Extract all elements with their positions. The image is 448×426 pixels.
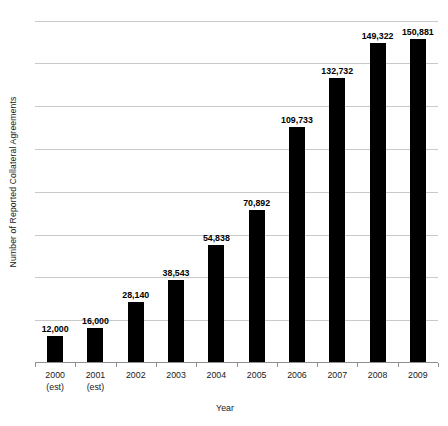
x-axis-title: Year bbox=[0, 403, 448, 413]
x-axis-label-year: 2006 bbox=[287, 370, 307, 380]
bar-group[interactable]: 109,733 bbox=[289, 127, 305, 362]
bar-value-label: 132,732 bbox=[321, 66, 353, 76]
x-axis-tick bbox=[156, 363, 157, 367]
x-axis-tick bbox=[75, 363, 76, 367]
x-axis-label: 2004 bbox=[207, 370, 227, 382]
x-axis-label-estimate-note: (est) bbox=[45, 382, 65, 394]
x-axis-tick bbox=[35, 363, 36, 367]
bar-group[interactable]: 70,892 bbox=[249, 210, 265, 362]
bar[interactable] bbox=[87, 328, 103, 362]
x-axis-label-year: 2007 bbox=[327, 370, 347, 380]
bar-group[interactable]: 132,732 bbox=[329, 78, 345, 362]
x-axis-tick bbox=[357, 363, 358, 367]
bar-chart: Number of Reported Collateral Agreements… bbox=[0, 0, 448, 426]
x-axis-label: 2008 bbox=[368, 370, 388, 382]
bar-value-label: 70,892 bbox=[243, 198, 270, 208]
x-axis-label: 2000(est) bbox=[45, 370, 65, 393]
x-axis-label-year: 2003 bbox=[166, 370, 186, 380]
plot-area: 12,00016,00028,14038,54354,83870,892109,… bbox=[35, 10, 438, 363]
bar-value-label: 54,838 bbox=[203, 233, 230, 243]
x-axis-tick bbox=[398, 363, 399, 367]
bar[interactable] bbox=[168, 280, 184, 362]
x-axis: 2000(est)2001(est)2002200320042005200620… bbox=[35, 363, 438, 408]
bar[interactable] bbox=[329, 78, 345, 362]
x-axis-label-year: 2004 bbox=[207, 370, 227, 380]
x-axis-tick bbox=[438, 363, 439, 367]
bar-value-label: 109,733 bbox=[281, 115, 313, 125]
bar-group[interactable]: 54,838 bbox=[208, 245, 224, 362]
y-axis-title-text: Number of Reported Collateral Agreements bbox=[8, 96, 18, 267]
x-axis-tick bbox=[317, 363, 318, 367]
x-axis-label: 2002 bbox=[126, 370, 146, 382]
bar-group[interactable]: 149,322 bbox=[370, 43, 386, 362]
x-axis-label: 2001(est) bbox=[86, 370, 106, 393]
x-axis-tick bbox=[237, 363, 238, 367]
x-axis-tick bbox=[277, 363, 278, 367]
bar[interactable] bbox=[289, 127, 305, 362]
bar-group[interactable]: 38,543 bbox=[168, 280, 184, 362]
bar[interactable] bbox=[249, 210, 265, 362]
x-axis-label-year: 2002 bbox=[126, 370, 146, 380]
x-axis-title-text: Year bbox=[216, 403, 234, 413]
x-axis-tick bbox=[116, 363, 117, 367]
bar-group[interactable]: 28,140 bbox=[128, 302, 144, 362]
x-axis-label-estimate-note: (est) bbox=[86, 382, 106, 394]
x-axis-tick bbox=[196, 363, 197, 367]
x-axis-label: 2003 bbox=[166, 370, 186, 382]
x-axis-label-year: 2008 bbox=[368, 370, 388, 380]
bar-value-label: 12,000 bbox=[42, 324, 69, 334]
bar-group[interactable]: 12,000 bbox=[47, 336, 63, 362]
bar[interactable] bbox=[370, 43, 386, 362]
y-axis-title: Number of Reported Collateral Agreements bbox=[0, 0, 26, 363]
bar[interactable] bbox=[128, 302, 144, 362]
bar-value-label: 16,000 bbox=[82, 316, 109, 326]
bar-value-label: 38,543 bbox=[163, 268, 190, 278]
bar[interactable] bbox=[47, 336, 63, 362]
bar-value-label: 150,881 bbox=[402, 27, 434, 37]
bar-group[interactable]: 16,000 bbox=[87, 328, 103, 362]
x-axis-label: 2005 bbox=[247, 370, 267, 382]
x-axis-label: 2006 bbox=[287, 370, 307, 382]
x-axis-label: 2009 bbox=[408, 370, 428, 382]
bar-group[interactable]: 150,881 bbox=[410, 39, 426, 362]
x-axis-label-year: 2005 bbox=[247, 370, 267, 380]
bar-value-label: 149,322 bbox=[362, 31, 394, 41]
x-axis-label-year: 2001 bbox=[86, 370, 106, 380]
x-axis-label-year: 2000 bbox=[45, 370, 65, 380]
x-axis-label: 2007 bbox=[327, 370, 347, 382]
bar[interactable] bbox=[208, 245, 224, 362]
bars-layer: 12,00016,00028,14038,54354,83870,892109,… bbox=[35, 10, 438, 363]
x-axis-label-year: 2009 bbox=[408, 370, 428, 380]
bar[interactable] bbox=[410, 39, 426, 362]
bar-value-label: 28,140 bbox=[122, 290, 149, 300]
